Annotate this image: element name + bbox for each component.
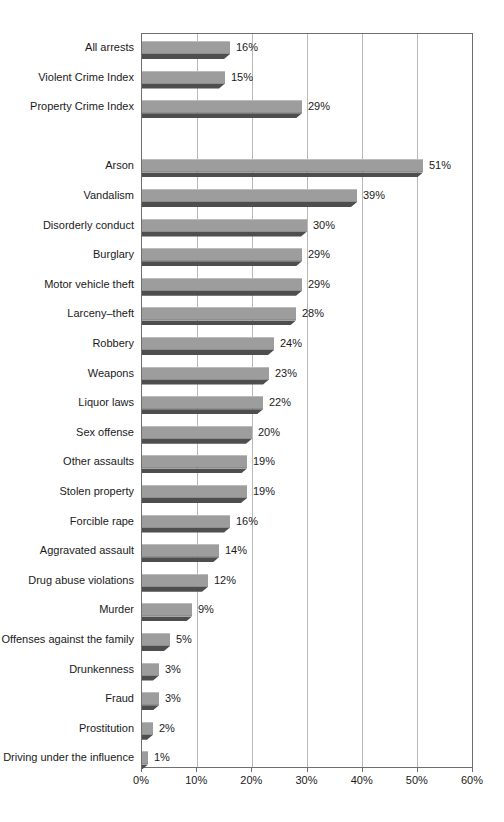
bar-row: Aggravated assault14% bbox=[0, 536, 504, 566]
bar bbox=[142, 41, 230, 59]
bar bbox=[142, 603, 192, 621]
bar-row: Property Crime Index29% bbox=[0, 92, 504, 122]
category-label: Prostitution bbox=[0, 721, 134, 736]
bar-shadow-edge bbox=[142, 616, 192, 621]
axis-tick bbox=[417, 768, 418, 772]
value-label: 19% bbox=[253, 484, 275, 499]
value-label: 29% bbox=[308, 99, 330, 114]
bar-face bbox=[142, 722, 153, 735]
bar-row: Prostitution2% bbox=[0, 714, 504, 744]
value-label: 30% bbox=[313, 218, 335, 233]
bar-shadow-edge bbox=[142, 439, 252, 444]
bar bbox=[142, 367, 269, 385]
bar-row: Murder9% bbox=[0, 595, 504, 625]
category-label: Stolen property bbox=[0, 484, 134, 499]
bar-face bbox=[142, 100, 302, 113]
value-label: 1% bbox=[154, 750, 170, 765]
value-label: 14% bbox=[225, 543, 247, 558]
bar-row: Robbery24% bbox=[0, 329, 504, 359]
bar-row: Other assaults19% bbox=[0, 447, 504, 477]
bar bbox=[142, 692, 159, 710]
bar-face bbox=[142, 751, 148, 764]
bar-row: Weapons23% bbox=[0, 359, 504, 389]
category-label: Forcible rape bbox=[0, 514, 134, 529]
value-label: 5% bbox=[176, 632, 192, 647]
value-label: 19% bbox=[253, 454, 275, 469]
bar-face bbox=[142, 426, 252, 439]
value-label: 39% bbox=[363, 188, 385, 203]
bar-shadow-edge bbox=[142, 320, 296, 325]
bar-face bbox=[142, 367, 269, 380]
bar-face bbox=[142, 663, 159, 676]
value-label: 23% bbox=[275, 366, 297, 381]
value-label: 20% bbox=[258, 425, 280, 440]
bar-shadow-edge bbox=[142, 261, 302, 266]
bar-face bbox=[142, 396, 263, 409]
bar bbox=[142, 219, 307, 237]
bar-shadow-edge bbox=[142, 557, 219, 562]
category-label: Disorderly conduct bbox=[0, 218, 134, 233]
bar-face bbox=[142, 307, 296, 320]
category-label: Aggravated assault bbox=[0, 543, 134, 558]
category-label: Vandalism bbox=[0, 188, 134, 203]
category-label: Liquor laws bbox=[0, 395, 134, 410]
axis-tick-label: 20% bbox=[229, 774, 273, 786]
bar-face bbox=[142, 71, 225, 84]
axis-tick-label: 50% bbox=[395, 774, 439, 786]
axis-tick-label: 0% bbox=[119, 774, 163, 786]
axis-tick bbox=[251, 768, 252, 772]
value-label: 51% bbox=[429, 158, 451, 173]
category-label: Weapons bbox=[0, 366, 134, 381]
bar-row: Stolen property19% bbox=[0, 477, 504, 507]
axis-tick bbox=[196, 768, 197, 772]
axis-tick bbox=[472, 768, 473, 772]
bar-rows: All arrests16%Violent Crime Index15%Prop… bbox=[0, 33, 504, 773]
category-label: Motor vehicle theft bbox=[0, 277, 134, 292]
category-label: Violent Crime Index bbox=[0, 70, 134, 85]
bar-row: Arson51% bbox=[0, 151, 504, 181]
bar-face bbox=[142, 603, 192, 616]
bar-shadow-edge bbox=[142, 232, 307, 237]
bar-row: Fraud3% bbox=[0, 684, 504, 714]
bar-shadow-edge bbox=[142, 84, 225, 89]
axis-tick bbox=[141, 768, 142, 772]
bar-face bbox=[142, 189, 357, 202]
value-label: 15% bbox=[231, 70, 253, 85]
bar bbox=[142, 751, 148, 769]
category-label: Murder bbox=[0, 602, 134, 617]
bar-row: Burglary29% bbox=[0, 240, 504, 270]
bar-row: Sex offense20% bbox=[0, 418, 504, 448]
bar-row: Drug abuse violations12% bbox=[0, 566, 504, 596]
value-label: 9% bbox=[198, 602, 214, 617]
bar-face bbox=[142, 692, 159, 705]
bar-shadow-edge bbox=[142, 380, 269, 385]
bar-face bbox=[142, 485, 247, 498]
category-label: All arrests bbox=[0, 40, 134, 55]
category-label: Arson bbox=[0, 158, 134, 173]
bar-shadow-edge bbox=[142, 409, 263, 414]
bar bbox=[142, 426, 252, 444]
bar bbox=[142, 722, 153, 740]
bar bbox=[142, 307, 296, 325]
bar-row: Violent Crime Index15% bbox=[0, 63, 504, 93]
bar-face bbox=[142, 633, 170, 646]
bar bbox=[142, 189, 357, 207]
category-label: Drug abuse violations bbox=[0, 573, 134, 588]
axis-tick-label: 30% bbox=[285, 774, 329, 786]
bar-face bbox=[142, 337, 274, 350]
bar-row: Larceny–theft28% bbox=[0, 299, 504, 329]
value-label: 22% bbox=[269, 395, 291, 410]
bar bbox=[142, 633, 170, 651]
bar-shadow-edge bbox=[142, 735, 153, 740]
bar-face bbox=[142, 219, 307, 232]
bar-shadow-edge bbox=[142, 646, 170, 651]
bar-row: Drunkenness3% bbox=[0, 655, 504, 685]
bar-shadow-edge bbox=[142, 172, 423, 177]
bar-row: Disorderly conduct30% bbox=[0, 211, 504, 241]
bar-shadow-edge bbox=[142, 764, 148, 769]
value-label: 12% bbox=[214, 573, 236, 588]
bar-shadow-edge bbox=[142, 54, 230, 59]
axis-tick-label: 40% bbox=[340, 774, 384, 786]
bar bbox=[142, 485, 247, 503]
bar-face bbox=[142, 159, 423, 172]
